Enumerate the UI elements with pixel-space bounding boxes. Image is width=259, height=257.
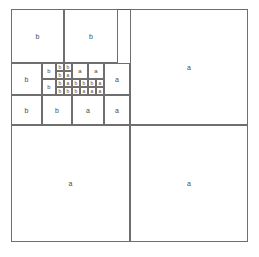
cell-label: a (187, 64, 191, 71)
square-cell-core-r1-b-1: b (56, 63, 64, 71)
square-cell-core-r3-a-2: a (96, 79, 104, 87)
cell-label: a (67, 81, 70, 86)
cell-label: a (69, 180, 73, 187)
square-cell-core-top-a-1: a (72, 63, 88, 79)
square-cell-core-r2-a-1: a (64, 71, 72, 79)
cell-label: a (187, 180, 191, 187)
square-cell-core-r3-b-3: b (80, 79, 88, 87)
cell-label: a (91, 89, 94, 94)
square-cell-core-r4-a-1: a (80, 87, 88, 95)
square-cell-bottom-left-a: a (11, 125, 130, 242)
square-cell-core-r3-b-2: b (72, 79, 80, 87)
cell-label: a (78, 68, 81, 74)
cell-label: b (91, 81, 94, 86)
cell-label: a (115, 76, 119, 83)
square-cell-mid-b-lower: b (42, 79, 56, 95)
cell-label: b (55, 107, 59, 114)
cell-label: b (47, 84, 50, 90)
cell-label: b (59, 89, 62, 94)
square-cell-top-left-b-2: b (64, 9, 118, 63)
square-cell-core-r3-a-1: a (64, 79, 72, 87)
cell-label: a (99, 89, 102, 94)
square-cell-top-right-a-large: a (130, 9, 248, 125)
cell-label: b (47, 68, 50, 74)
cell-label: a (67, 73, 70, 78)
square-cell-bottom-band-a-2: a (104, 95, 130, 125)
cell-label: b (59, 73, 62, 78)
cell-label: b (25, 107, 29, 114)
cell-label: b (36, 33, 40, 40)
cell-label: b (25, 76, 29, 83)
square-cell-mid-b-upper: b (42, 63, 56, 79)
square-cell-core-r1-b-2: b (64, 63, 72, 71)
square-cell-core-r4-b-2: b (64, 87, 72, 95)
square-cell-core-r3-b-1: b (56, 79, 64, 87)
square-cell-mid-left-b: b (11, 63, 42, 95)
cell-label: b (67, 65, 70, 70)
square-cell-mid-right-a: a (104, 63, 130, 95)
square-cell-core-r2-b-1: b (56, 71, 64, 79)
square-cell-bottom-band-b-1: b (11, 95, 42, 125)
cell-label: a (94, 68, 97, 74)
square-cell-core-top-a-2: a (88, 63, 104, 79)
cell-label: a (99, 81, 102, 86)
square-cell-core-r3-b-4: b (88, 79, 96, 87)
cell-label: a (115, 107, 119, 114)
cell-label: a (86, 107, 90, 114)
cell-label: b (59, 65, 62, 70)
cell-label: b (89, 33, 93, 40)
cell-label: b (83, 81, 86, 86)
square-cell-top-left-b-1: b (11, 9, 64, 63)
square-cell-core-r4-a-2: a (88, 87, 96, 95)
cell-label: a (83, 89, 86, 94)
square-cell-core-r4-b-3: b (72, 87, 80, 95)
square-cell-bottom-right-a: a (130, 125, 248, 242)
cell-label: b (59, 81, 62, 86)
square-cell-core-r4-a-3: a (96, 87, 104, 95)
square-cell-core-r4-b-1: b (56, 87, 64, 95)
square-cell-bottom-band-a-1: a (72, 95, 104, 125)
cell-label: b (75, 81, 78, 86)
cell-label: b (67, 89, 70, 94)
square-cell-bottom-band-b-2: b (42, 95, 72, 125)
squared-square-diagram: bbabbbbbbaaababbbabbbaaaabbaaaa (0, 0, 259, 257)
cell-label: b (75, 89, 78, 94)
